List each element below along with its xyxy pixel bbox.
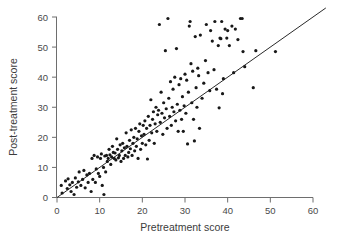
data-point [66,177,69,180]
data-point [107,157,110,160]
data-point [93,154,96,157]
data-point [109,163,112,166]
data-point [183,104,186,107]
x-axis-tick-labels: 0102030405060 [54,205,318,216]
data-point [88,172,91,175]
data-point [161,133,164,136]
data-point [101,184,104,187]
data-point [184,112,187,115]
data-point [168,115,171,118]
x-tick-label-0: 0 [54,205,59,216]
data-point [198,127,201,130]
data-point [274,50,277,53]
data-point [134,127,137,130]
y-tick-label-0: 0 [43,192,48,203]
data-point [208,89,211,92]
data-point [100,152,103,155]
data-point [121,142,124,145]
data-point [94,181,97,184]
data-point [122,157,125,160]
data-point [144,143,147,146]
x-axis-ticks [57,198,313,203]
data-point [181,95,184,98]
data-point [190,101,193,104]
x-tick-label-50: 50 [265,205,276,216]
data-point [220,20,223,23]
data-point [167,97,170,100]
data-point [84,186,87,189]
data-point [178,109,181,112]
data-point [176,103,179,106]
data-point [119,160,122,163]
data-point [136,137,139,140]
data-point [99,157,102,160]
data-point [61,191,64,194]
data-point [102,166,105,169]
y-tick-label-50: 50 [37,42,48,53]
data-point [150,131,153,134]
data-point [82,169,85,172]
x-tick-label-40: 40 [222,205,233,216]
data-point [175,47,178,50]
y-tick-label-10: 10 [37,162,48,173]
data-point [165,107,168,110]
data-point [66,187,69,190]
chart-canvas: 0102030405060 0102030405060 Pretreatment… [0,0,340,252]
data-point [165,127,168,130]
data-point [81,178,84,181]
data-point [90,157,93,160]
data-point [127,151,130,154]
scatter-plot-figure: 0102030405060 0102030405060 Pretreatment… [0,0,340,252]
data-point [204,59,207,62]
data-point [102,193,105,196]
data-point [232,71,235,74]
scatter-points [60,17,277,196]
data-point [241,50,244,53]
data-point [69,190,72,193]
data-point [126,155,129,158]
data-point [252,86,255,89]
data-point [116,148,119,151]
x-tick-label-20: 20 [137,205,148,216]
data-point [225,36,228,39]
data-point [169,80,172,83]
data-point [79,184,82,187]
x-axis-title: Pretreatment score [140,221,229,233]
data-point [185,79,188,82]
data-point [254,49,257,52]
data-point [154,106,157,109]
data-point [111,145,114,148]
data-point [186,142,189,145]
data-point [95,167,98,170]
data-point [160,91,163,94]
data-point [188,24,191,27]
data-point [170,124,173,127]
data-point [236,38,239,41]
x-tick-label-30: 30 [180,205,191,216]
data-point [199,33,202,36]
data-point [228,44,231,47]
data-point [90,190,93,193]
data-point [155,130,158,133]
data-point [182,130,185,133]
data-point [194,86,197,89]
data-point [183,73,186,76]
data-point [74,176,77,179]
data-point [138,122,141,125]
data-point [191,70,194,73]
data-point [177,83,180,86]
data-point [72,193,75,196]
data-point [156,113,159,116]
data-point [151,118,154,121]
data-point [139,148,142,151]
data-point [87,181,90,184]
data-point [180,118,183,121]
data-point [131,142,134,145]
data-point [60,184,63,187]
data-point [105,154,108,157]
y-axis-title: Post-treatment score [7,58,19,156]
data-point [136,157,139,160]
data-point [148,124,151,127]
data-point [96,155,99,158]
data-point [125,145,128,148]
